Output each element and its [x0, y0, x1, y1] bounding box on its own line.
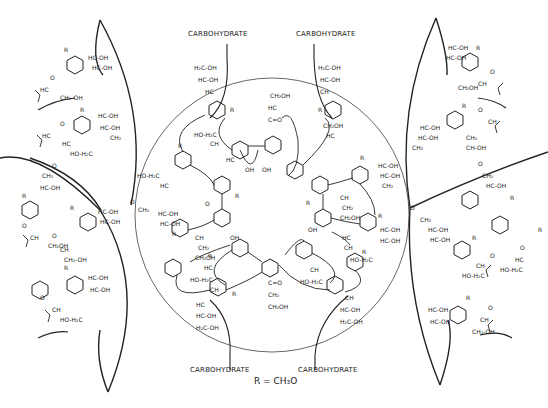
svg-text:OH: OH [262, 166, 271, 173]
svg-text:HC-OH: HC-OH [158, 210, 178, 217]
svg-text:R: R [80, 106, 84, 113]
svg-text:HC-OH: HC-OH [196, 312, 216, 319]
carbohydrate-label-top-left: CARBOHYDRATE [188, 30, 248, 38]
svg-text:CH₂: CH₂ [42, 172, 54, 179]
svg-text:HC-OH: HC-OH [92, 64, 112, 71]
svg-text:HC: HC [40, 86, 49, 93]
carbohydrate-label-top-right: CARBOHYDRATE [296, 30, 356, 38]
svg-text:C=O: C=O [268, 116, 282, 123]
svg-text:R: R [70, 204, 74, 211]
svg-text:R: R [178, 142, 182, 149]
svg-text:CH₂: CH₂ [198, 244, 210, 251]
svg-text:O: O [52, 232, 57, 239]
svg-text:HC-OH: HC-OH [40, 184, 60, 191]
structure-drawing: CH₂OH HC C=O OH R R H₂C-OH HC-OH HC H₂C-… [0, 0, 548, 408]
svg-text:OH: OH [308, 226, 317, 233]
svg-text:CH: CH [320, 88, 329, 95]
svg-text:HO-H₂C: HO-H₂C [462, 272, 485, 279]
svg-text:HC: HC [326, 132, 335, 139]
svg-text:O: O [40, 294, 45, 301]
svg-text:CH: CH [488, 118, 497, 125]
svg-text:CH: CH [478, 80, 487, 87]
svg-text:R: R [378, 212, 382, 219]
svg-text:CH₂: CH₂ [466, 134, 478, 141]
outer-labels: HC-OH HC-OH R O HC CH₂-OH HC-OH HC-OH CH… [22, 44, 542, 335]
svg-text:HC-OH: HC-OH [380, 226, 400, 233]
svg-text:HO-H₂C: HO-H₂C [137, 172, 160, 179]
svg-text:HC-OH: HC-OH [88, 54, 108, 61]
svg-text:H₂C-OH: H₂C-OH [340, 318, 363, 325]
svg-text:O: O [52, 162, 57, 169]
svg-text:HO-H₂C: HO-H₂C [70, 150, 93, 157]
svg-text:R: R [22, 192, 26, 199]
svg-text:HC-OH: HC-OH [98, 208, 118, 215]
svg-text:OH: OH [230, 234, 239, 241]
svg-text:CH: CH [210, 286, 219, 293]
svg-text:O: O [490, 252, 495, 259]
svg-text:HC-OH: HC-OH [378, 162, 398, 169]
svg-text:R: R [235, 192, 239, 199]
svg-text:HO-H₂C: HO-H₂C [350, 256, 373, 263]
svg-text:R: R [476, 44, 480, 51]
svg-text:R: R [472, 234, 476, 241]
svg-text:O: O [410, 204, 415, 211]
svg-text:HC-OH: HC-OH [420, 124, 440, 131]
svg-text:CH: CH [480, 316, 489, 323]
svg-text:HC-OH: HC-OH [446, 54, 466, 61]
svg-text:R: R [318, 106, 322, 113]
svg-text:HC: HC [268, 104, 277, 111]
svg-text:CH₂: CH₂ [138, 206, 150, 213]
svg-text:R: R [462, 102, 466, 109]
svg-text:CH: CH [60, 246, 69, 253]
svg-text:CH₂OH: CH₂OH [195, 254, 215, 261]
svg-text:HC-OH: HC-OH [198, 76, 218, 83]
svg-text:R: R [208, 252, 212, 259]
lignin-structure-diagram: CH₂OH HC C=O OH R R H₂C-OH HC-OH HC H₂C-… [0, 0, 548, 408]
svg-text:CH: CH [30, 234, 39, 241]
svg-text:HC-OH: HC-OH [418, 134, 438, 141]
svg-text:CH₂OH: CH₂OH [340, 214, 360, 221]
svg-text:O: O [60, 120, 65, 127]
svg-text:CH₂OH: CH₂OH [268, 303, 288, 310]
svg-text:CH₂OH: CH₂OH [270, 92, 290, 99]
svg-text:CH: CH [476, 262, 485, 269]
carbohydrate-label-bottom-left: CARBOHYDRATE [190, 366, 250, 374]
open-bond-stubs [23, 83, 503, 332]
svg-text:O: O [478, 106, 483, 113]
svg-text:HC-OH: HC-OH [428, 306, 448, 313]
svg-text:HC-OH: HC-OH [430, 318, 450, 325]
side-chain-labels: CH₂OH HC C=O OH R R H₂C-OH HC-OH HC H₂C-… [137, 64, 400, 331]
svg-text:CH₂OH: CH₂OH [458, 84, 478, 91]
svg-text:CH: CH [344, 244, 353, 251]
svg-text:CH₂: CH₂ [342, 204, 354, 211]
svg-text:R: R [466, 294, 470, 301]
svg-text:O: O [478, 160, 483, 167]
svg-text:O: O [205, 200, 210, 207]
svg-text:CH-OH: CH-OH [466, 144, 486, 151]
svg-text:CH: CH [210, 140, 219, 147]
svg-text:CH: CH [345, 294, 354, 301]
svg-text:CH₂: CH₂ [268, 291, 280, 298]
svg-text:R: R [64, 46, 68, 53]
svg-text:CH₂: CH₂ [382, 182, 394, 189]
svg-text:O: O [22, 222, 27, 229]
svg-text:HO-H₂C: HO-H₂C [60, 316, 83, 323]
svg-text:O: O [50, 74, 55, 81]
svg-text:HC-OH: HC-OH [380, 237, 400, 244]
outer-units [22, 53, 508, 324]
svg-text:HC-OH: HC-OH [100, 218, 120, 225]
svg-text:HO-H₂C: HO-H₂C [194, 131, 217, 138]
svg-text:R: R [232, 290, 236, 297]
svg-text:CH₂OH: CH₂OH [323, 122, 343, 129]
svg-text:H₂C-OH: H₂C-OH [318, 64, 341, 71]
svg-text:OH: OH [245, 166, 254, 173]
svg-text:HC-OH: HC-OH [428, 226, 448, 233]
svg-text:HC: HC [205, 88, 214, 95]
svg-text:HC-OH: HC-OH [160, 220, 180, 227]
svg-text:CH₂: CH₂ [412, 144, 424, 151]
svg-text:CH₂-OH: CH₂-OH [472, 328, 495, 335]
svg-text:HC-OH: HC-OH [90, 286, 110, 293]
svg-text:HC-OH: HC-OH [320, 76, 340, 83]
svg-text:O: O [488, 304, 493, 311]
svg-text:HC-OH: HC-OH [486, 182, 506, 189]
